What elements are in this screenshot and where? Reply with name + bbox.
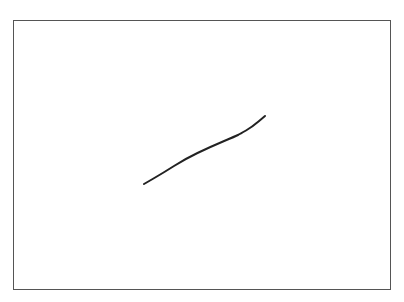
freehand-line <box>144 116 265 184</box>
drawing-canvas <box>0 0 404 302</box>
